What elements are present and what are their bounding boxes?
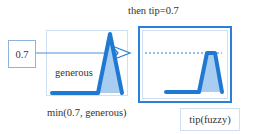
output-label-box: tip(fuzzy)	[180, 108, 240, 131]
output-label: tip(fuzzy)	[189, 114, 230, 125]
clipped-output-icon	[166, 53, 222, 92]
min-operation-label: min(0.7, generous)	[47, 107, 127, 118]
generous-label: generous	[55, 67, 93, 78]
generous-membership-icon	[52, 34, 122, 93]
